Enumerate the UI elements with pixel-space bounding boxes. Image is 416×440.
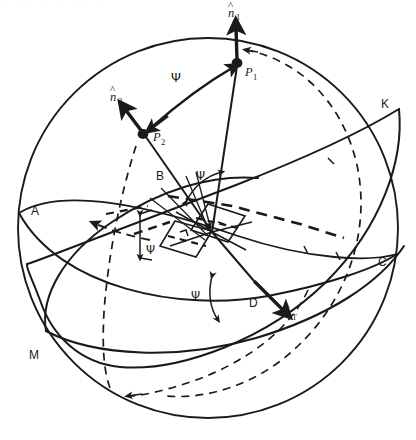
- label-P2-base: P: [152, 130, 161, 144]
- label-point-D: D: [249, 296, 258, 310]
- label-point-A: A: [31, 204, 39, 218]
- label-P1-base: P: [244, 65, 253, 79]
- label-psi-upper: Ψ: [171, 70, 181, 85]
- point-marker-P1: [232, 58, 243, 68]
- label-point-B: B: [156, 169, 164, 183]
- diagram-canvas: n ^ 1 n ^ 2 n ^ T P 1 P 2 A B C: [0, 0, 416, 440]
- top-scan-artifact: · ·· · · ·· ·: [0, 0, 416, 7]
- label-P1-sub: 1: [253, 72, 257, 82]
- hat-accent-2: ^: [110, 83, 116, 95]
- label-n-hat-1-sub: 1: [236, 12, 240, 22]
- label-point-K: K: [381, 97, 389, 111]
- vector-n-hat-1: [236, 28, 237, 60]
- point-marker-P2: [138, 129, 149, 139]
- label-n-hat-2-sub: 2: [118, 96, 122, 106]
- spherical-geometry-figure: · ·· · · ·· ·: [0, 0, 416, 440]
- label-point-M: M: [29, 348, 39, 362]
- label-P2-sub: 2: [161, 137, 165, 147]
- label-point-C: C: [378, 255, 387, 269]
- hat-accent-T: ^: [285, 301, 290, 312]
- label-psi-center: Ψ: [196, 169, 205, 183]
- label-psi-left: Ψ: [146, 243, 155, 257]
- label-n-hat-T-sub: T: [292, 313, 297, 322]
- label-psi-lower: Ψ: [191, 289, 200, 303]
